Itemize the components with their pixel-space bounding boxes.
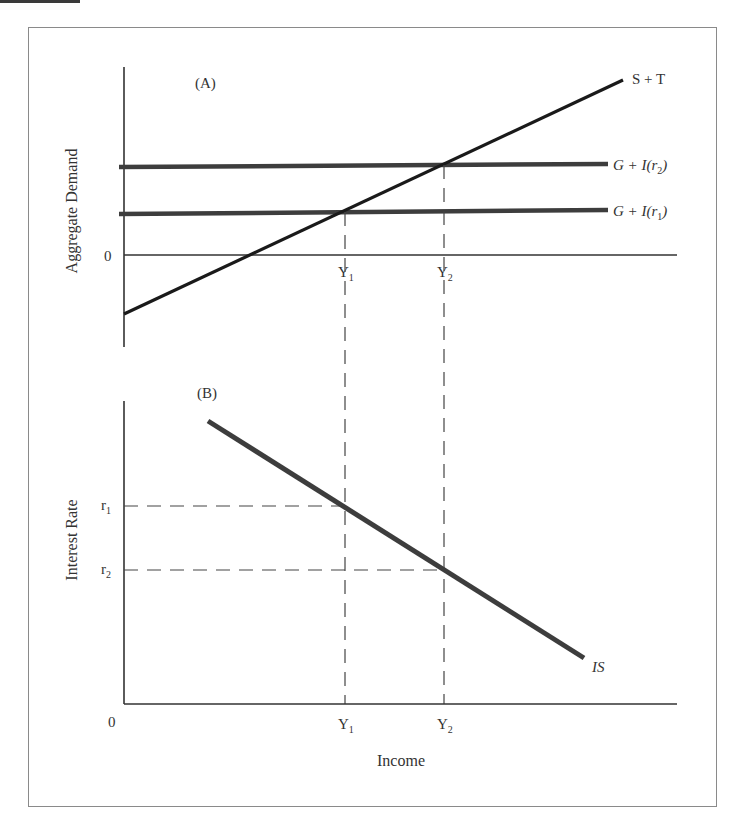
s-plus-t-line — [124, 80, 623, 314]
y2-label-a: Y2 — [437, 264, 453, 283]
panel-b: (B) Interest Rate r1 r2 IS 0 Y1 Y2 Incom… — [63, 385, 677, 769]
income-label: Income — [377, 752, 425, 769]
zero-label-b: 0 — [108, 714, 116, 730]
is-label: IS — [591, 659, 605, 675]
panel-a-label: (A) — [195, 75, 216, 92]
g-plus-i-r1-label: G + I(r1) — [613, 203, 667, 222]
y1-label-b: Y1 — [338, 716, 354, 735]
panel-a: (A) 0 Aggregate Demand S + T G + I(r2) G… — [63, 67, 677, 347]
s-plus-t-label: S + T — [632, 71, 665, 87]
aggregate-demand-label: Aggregate Demand — [63, 149, 81, 274]
g-plus-i-r1-line — [119, 210, 608, 214]
y1-label-a: Y1 — [338, 264, 354, 283]
interest-rate-label: Interest Rate — [63, 499, 80, 580]
r2-label: r2 — [101, 561, 111, 580]
zero-label-a: 0 — [104, 248, 112, 264]
g-plus-i-r2-label: G + I(r2) — [613, 157, 667, 176]
r1-label: r1 — [101, 497, 111, 516]
is-curve-diagram: (A) 0 Aggregate Demand S + T G + I(r2) G… — [0, 0, 735, 828]
y2-label-b: Y2 — [437, 716, 453, 735]
panel-b-label: (B) — [197, 385, 217, 402]
g-plus-i-r2-line — [119, 164, 608, 167]
is-curve — [208, 421, 584, 658]
